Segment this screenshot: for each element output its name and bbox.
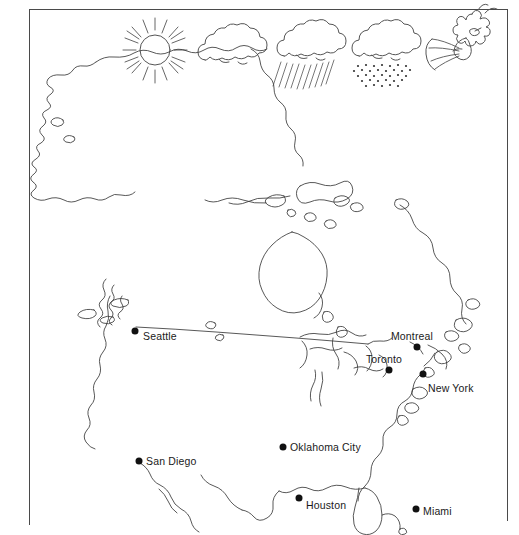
snow-icon [352, 20, 421, 88]
city-label-montreal: Montreal [391, 330, 433, 342]
city-marker-seattle[interactable] [132, 328, 139, 335]
city-label-toronto: Toronto [366, 353, 402, 365]
city-label-seattle: Seattle [143, 330, 177, 342]
city-marker-oklahoma-city[interactable] [280, 444, 287, 451]
wind-icon [426, 4, 497, 70]
city-marker-montreal[interactable] [414, 344, 421, 351]
city-label-oklahoma-city: Oklahoma City [290, 441, 361, 453]
rain-icon [273, 20, 346, 89]
city-label-houston: Houston [306, 499, 346, 511]
sun-icon [123, 18, 187, 83]
city-marker-san-diego[interactable] [136, 458, 143, 465]
city-marker-houston[interactable] [296, 495, 303, 502]
city-marker-new-york[interactable] [420, 371, 427, 378]
city-label-san-diego: San Diego [146, 455, 196, 467]
weather-map-figure: SeattleMontrealTorontoNew YorkSan DiegoO… [0, 0, 519, 535]
city-label-miami: Miami [423, 505, 452, 517]
cloud-icon [198, 24, 267, 65]
city-marker-toronto[interactable] [386, 367, 393, 374]
map-drawing [0, 0, 519, 535]
city-marker-miami[interactable] [413, 506, 420, 513]
city-label-new-york: New York [428, 382, 474, 394]
